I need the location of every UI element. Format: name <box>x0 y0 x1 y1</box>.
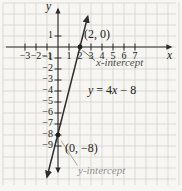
y-tick-label: −9 <box>30 140 53 150</box>
x-intercept-point <box>78 45 83 50</box>
y-tick-label: −3 <box>30 74 53 84</box>
y-intercept-callout: y-intercept <box>78 165 125 176</box>
x-tick-label: 1 <box>67 51 72 61</box>
y-tick-label: −5 <box>30 96 53 106</box>
equation-tail: − 8 <box>117 83 136 97</box>
x-axis-label: x <box>167 50 172 62</box>
x-tick-label: −3 <box>20 51 31 61</box>
y-tick-label: −6 <box>30 107 53 117</box>
y-tick-label: −4 <box>30 85 53 95</box>
equation-label: y = 4x − 8 <box>88 84 136 96</box>
y-intercept-coords-label: (0, −8) <box>65 142 98 154</box>
y-tick-label: −7 <box>30 118 53 128</box>
y-axis-label: y <box>46 1 51 13</box>
graph-figure: y x −3 −2 −1 1 2 3 4 5 6 7 1 −1 −2 −3 −4… <box>0 0 182 191</box>
y-tick-label: −8 <box>30 129 53 139</box>
y-intercept-point <box>56 133 61 138</box>
x-intercept-callout: x-intercept <box>96 57 143 68</box>
x-intercept-coords-label: (2, 0) <box>84 28 110 40</box>
x-tick-label: 2 <box>78 51 83 61</box>
y-tick-label: −2 <box>30 63 53 73</box>
x-tick-label: 3 <box>89 51 94 61</box>
y-tick-label: −1 <box>30 52 53 62</box>
equation-middle: = 4 <box>93 83 112 97</box>
y-tick-label: 1 <box>30 30 53 40</box>
